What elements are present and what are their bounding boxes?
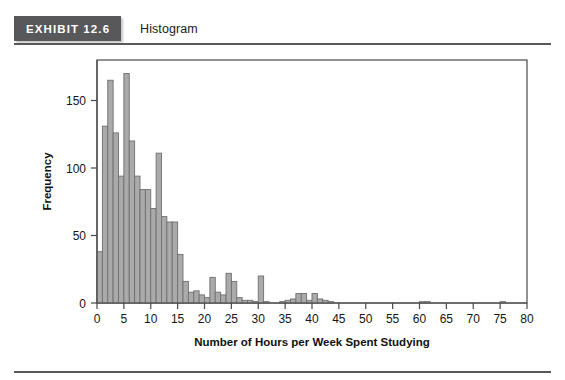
x-tick-label: 70 xyxy=(467,312,481,326)
histogram-bar xyxy=(145,190,150,303)
header-divider xyxy=(14,43,551,45)
x-tick-label: 75 xyxy=(493,312,507,326)
histogram-bar xyxy=(199,295,204,303)
histogram-bar xyxy=(291,299,296,303)
x-tick-label: 15 xyxy=(171,312,185,326)
exhibit-header: EXHIBIT 12.6 Histogram xyxy=(0,16,565,46)
histogram-bar xyxy=(156,153,161,303)
histogram-bar xyxy=(194,291,199,303)
histogram-bar xyxy=(210,277,215,303)
histogram-bar xyxy=(188,292,193,303)
histogram-bar xyxy=(172,222,177,303)
histogram-bar xyxy=(167,222,172,303)
histogram-bar xyxy=(183,281,188,303)
x-tick-label: 50 xyxy=(359,312,373,326)
x-tick-label: 10 xyxy=(144,312,158,326)
histogram-bar xyxy=(301,294,306,303)
y-tick-label: 0 xyxy=(79,297,86,311)
x-tick-label: 5 xyxy=(121,312,128,326)
histogram-bar xyxy=(162,217,167,303)
x-tick-label: 45 xyxy=(332,312,346,326)
x-tick-label: 20 xyxy=(198,312,212,326)
x-tick-label: 0 xyxy=(94,312,101,326)
histogram-bar xyxy=(215,292,220,303)
y-axis: 050100150 xyxy=(66,60,97,311)
x-axis-title: Number of Hours per Week Spent Studying xyxy=(194,336,430,348)
histogram-bar xyxy=(124,74,129,304)
histogram-bar xyxy=(151,209,156,304)
histogram-bars xyxy=(97,74,506,304)
x-tick-label: 40 xyxy=(305,312,319,326)
y-tick-label: 100 xyxy=(66,162,86,176)
histogram-bar xyxy=(108,80,113,303)
exhibit-number-tag: EXHIBIT 12.6 xyxy=(14,16,121,41)
histogram-bar xyxy=(237,298,242,303)
exhibit-caption: Histogram xyxy=(140,16,198,41)
histogram-bar xyxy=(221,295,226,303)
x-tick-label: 35 xyxy=(278,312,292,326)
histogram-bar xyxy=(296,294,301,303)
histogram-bar xyxy=(226,273,231,303)
y-axis-title: Frequency xyxy=(41,152,53,211)
histogram-bar xyxy=(205,298,210,303)
x-tick-label: 60 xyxy=(413,312,427,326)
histogram-chart: 05101520253035404550556065707580 0501001… xyxy=(0,46,565,366)
histogram-bar xyxy=(140,190,145,303)
histogram-bar xyxy=(135,176,140,303)
histogram-bar xyxy=(119,176,124,303)
histogram-bar xyxy=(258,276,263,303)
histogram-bar xyxy=(113,133,118,303)
histogram-bar xyxy=(129,141,134,303)
histogram-figure: 05101520253035404550556065707580 0501001… xyxy=(0,46,565,366)
x-axis: 05101520253035404550556065707580 xyxy=(94,303,534,326)
x-tick-label: 25 xyxy=(225,312,239,326)
x-tick-label: 65 xyxy=(440,312,454,326)
histogram-bar xyxy=(312,294,317,303)
histogram-bar xyxy=(97,252,102,303)
footer-divider xyxy=(14,371,551,373)
x-tick-label: 55 xyxy=(386,312,400,326)
histogram-bar xyxy=(231,281,236,303)
histogram-bar xyxy=(102,126,107,303)
x-tick-label: 30 xyxy=(252,312,266,326)
y-tick-label: 50 xyxy=(73,229,87,243)
x-tick-label: 80 xyxy=(520,312,534,326)
histogram-bar xyxy=(178,254,183,303)
y-tick-label: 150 xyxy=(66,94,86,108)
histogram-bar xyxy=(317,299,322,303)
